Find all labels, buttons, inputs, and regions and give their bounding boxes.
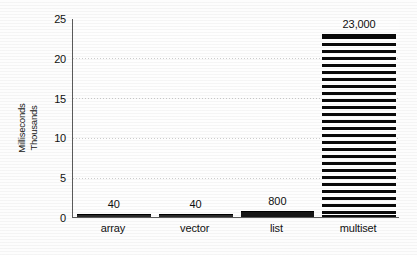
bar-slot: 23,000 (318, 19, 400, 217)
bar-chart: Milliseconds Thousands 0510152025 404080… (0, 0, 417, 255)
bar-array[interactable] (77, 214, 151, 217)
bar-slot: 40 (73, 19, 155, 217)
x-axis-label-array: array (72, 222, 154, 234)
y-tick-label: 25 (54, 13, 66, 25)
y-tick-label: 5 (60, 172, 66, 184)
bar-vector[interactable] (159, 214, 233, 217)
y-axis-title: Milliseconds Thousands (14, 80, 40, 176)
y-tick-label: 20 (54, 53, 66, 65)
plot-area: 0510152025 404080023,000 (72, 19, 399, 218)
bars-layer: 404080023,000 (73, 19, 399, 217)
bar-multiset[interactable] (322, 34, 396, 217)
x-axis-label-list: list (236, 222, 318, 234)
y-tick-label: 15 (54, 93, 66, 105)
y-axis-title-line-1: Milliseconds (16, 103, 27, 152)
y-tick-label: 0 (60, 212, 66, 224)
bar-slot: 800 (237, 19, 319, 217)
bar-slot: 40 (155, 19, 237, 217)
value-label-array: 40 (73, 198, 155, 210)
x-axis-label-multiset: multiset (317, 222, 399, 234)
x-axis-labels: arrayvectorlistmultiset (72, 222, 399, 244)
value-label-multiset: 23,000 (318, 18, 400, 30)
value-label-list: 800 (237, 195, 319, 207)
x-axis-label-vector: vector (154, 222, 236, 234)
y-axis-title-line-2: Thousands (28, 105, 39, 150)
value-label-vector: 40 (155, 198, 237, 210)
y-tick-label: 10 (54, 132, 66, 144)
bar-list[interactable] (241, 211, 315, 217)
